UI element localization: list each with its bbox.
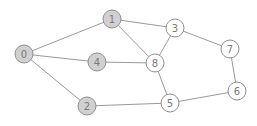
edges-layer <box>24 19 237 106</box>
node-4: 4 <box>88 53 106 71</box>
node-label: 4 <box>94 57 100 68</box>
edge-0-4 <box>24 54 97 62</box>
edge-2-5 <box>87 103 170 106</box>
node-2: 2 <box>78 97 96 115</box>
edge-1-3 <box>112 19 175 28</box>
edge-0-2 <box>24 54 87 106</box>
node-label: 2 <box>84 101 90 112</box>
node-1: 1 <box>103 10 121 28</box>
graph-diagram: 012345678 <box>0 0 257 126</box>
edge-6-5 <box>170 91 237 103</box>
node-label: 0 <box>21 49 27 60</box>
node-5: 5 <box>161 94 179 112</box>
edge-0-1 <box>24 19 112 54</box>
node-label: 6 <box>234 86 240 97</box>
node-8: 8 <box>146 54 164 72</box>
node-label: 3 <box>172 23 178 34</box>
node-label: 1 <box>109 14 115 25</box>
node-0: 0 <box>15 45 33 63</box>
node-6: 6 <box>228 82 246 100</box>
node-label: 8 <box>152 58 158 69</box>
node-label: 5 <box>167 98 173 109</box>
node-label: 7 <box>227 44 233 55</box>
node-7: 7 <box>221 40 239 58</box>
node-3: 3 <box>166 19 184 37</box>
